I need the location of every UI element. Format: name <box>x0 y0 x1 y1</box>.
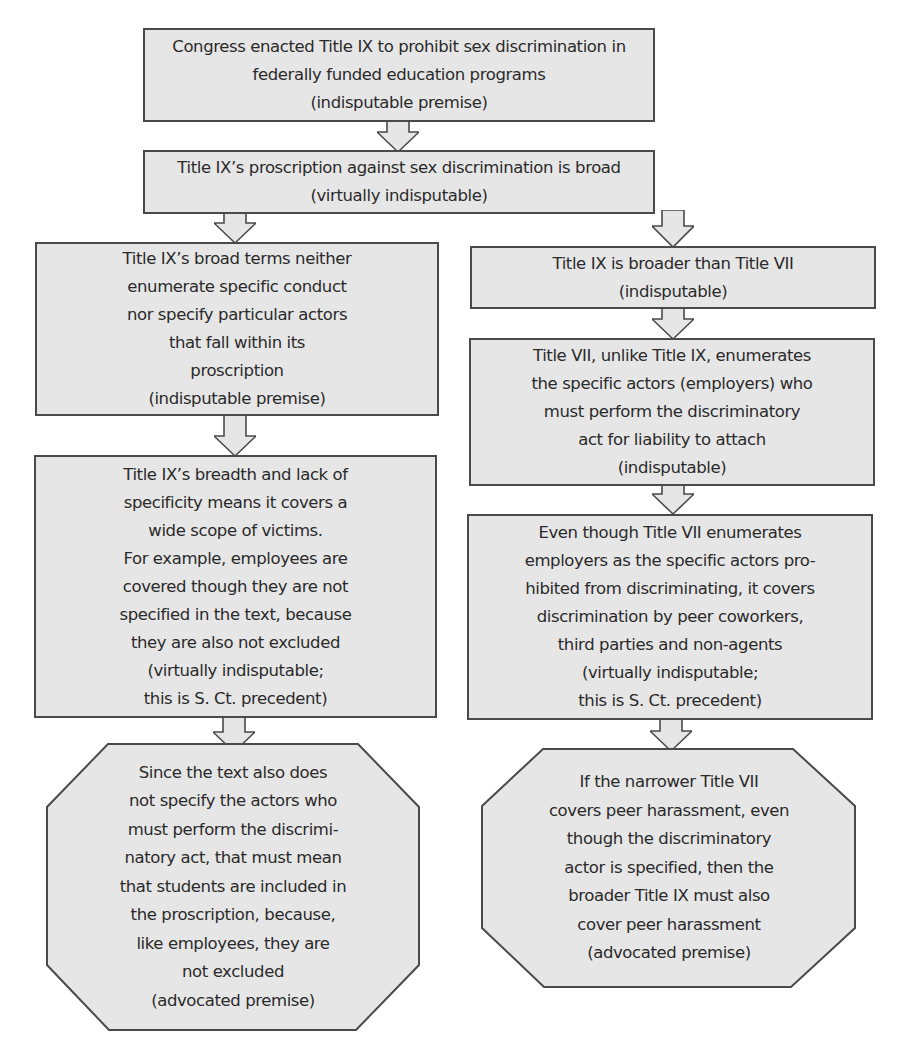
node-text: Title IX’s breadth and lack of specifici… <box>120 461 352 713</box>
node-text: Title IX’s broad terms neither enumerate… <box>123 245 352 413</box>
node-text: Title VII, unlike Title IX, enumerates t… <box>531 342 812 482</box>
node-text: Title IX is broader than Title VII (indi… <box>553 250 794 306</box>
node-text: Congress enacted Title IX to prohibit se… <box>172 33 625 117</box>
arrow-n4-right-to-n5-right <box>652 482 694 516</box>
premise-congress-enacted-title-ix: Congress enacted Title IX to prohibit se… <box>143 28 655 122</box>
node-text: If the narrower Title VII covers peer ha… <box>481 748 857 988</box>
arrow-n2-to-n3-left <box>214 210 256 245</box>
premise-title-vii-enumerates-employers: Title VII, unlike Title IX, enumerates t… <box>469 338 875 486</box>
conclusion-students-included: Since the text also does not specify the… <box>46 743 420 1031</box>
premise-wide-scope-of-victims: Title IX’s breadth and lack of specifici… <box>34 455 437 718</box>
node-text: Title IX’s proscription against sex disc… <box>177 154 620 210</box>
node-text: Since the text also does not specify the… <box>46 743 420 1031</box>
arrow-n1-to-n2 <box>377 118 419 154</box>
premise-title-ix-broad: Title IX’s proscription against sex disc… <box>143 150 655 214</box>
premise-no-enumerated-actors: Title IX’s broad terms neither enumerate… <box>35 242 439 416</box>
conclusion-title-ix-covers-peer-harassment: If the narrower Title VII covers peer ha… <box>481 748 857 988</box>
premise-title-ix-broader-than-vii: Title IX is broader than Title VII (indi… <box>470 246 876 309</box>
arrow-n3-left-to-n4-left <box>214 412 256 458</box>
arrow-n2-to-n3-right <box>652 210 694 249</box>
premise-title-vii-covers-coworkers: Even though Title VII enumerates employe… <box>467 514 873 720</box>
arrow-n3-right-to-n4-right <box>652 305 694 341</box>
node-text: Even though Title VII enumerates employe… <box>525 519 816 715</box>
